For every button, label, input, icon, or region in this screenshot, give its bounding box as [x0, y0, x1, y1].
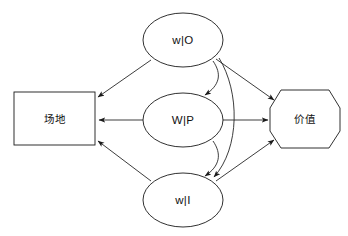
wo-label: w|O	[171, 34, 193, 46]
edge-wp-to-wi	[205, 141, 218, 176]
edge-wo-to-wp	[205, 61, 218, 95]
node-wp[interactable]: W|P	[143, 93, 223, 147]
node-value[interactable]: 价值	[270, 90, 340, 148]
site-label: 场地	[44, 113, 66, 125]
edge-wo-to-site	[98, 60, 151, 97]
wi-label: w|I	[174, 194, 191, 206]
node-wo[interactable]: w|O	[143, 13, 223, 67]
edge-wo-to-value	[216, 59, 274, 100]
node-wi[interactable]: w|I	[143, 173, 223, 227]
wp-label: W|P	[172, 114, 195, 126]
edge-wi-to-site	[98, 141, 151, 181]
node-site[interactable]: 场地	[14, 92, 95, 145]
diagram-svg: 场地 w|O W|P w|I 价值	[0, 0, 348, 236]
diagram-canvas: 场地 w|O W|P w|I 价值	[0, 0, 348, 236]
value-label: 价值	[294, 113, 316, 125]
